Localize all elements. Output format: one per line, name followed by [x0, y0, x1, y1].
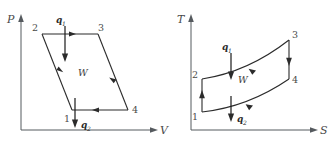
- pv-y-axis: [18, 14, 24, 130]
- ts-heat-out-subscript: 2: [242, 119, 247, 126]
- ts-heat-in-subscript: 1: [228, 47, 232, 54]
- pv-state-point-4: 4: [132, 104, 138, 115]
- ts-y-axis-label: T: [177, 13, 186, 26]
- pv-heat-in-arrow: [62, 26, 68, 62]
- ts-state-point-1: 1: [192, 111, 198, 122]
- pv-heat-in-subscript: 1: [62, 20, 66, 27]
- pv-work-label: W: [78, 67, 89, 78]
- pv-heat-out-arrow: [72, 98, 78, 128]
- pv-heat-in-label: q 1: [56, 15, 66, 27]
- ts-x-axis-label: S: [320, 124, 328, 137]
- ts-work-label: W: [238, 74, 249, 85]
- ts-heat-in-label: q 1: [222, 42, 232, 54]
- ts-x-axis: [191, 127, 318, 133]
- ts-state-point-4: 4: [292, 74, 298, 85]
- ts-heat-out-arrow: [228, 96, 234, 122]
- ts-heat-in-arrow: [228, 53, 234, 80]
- thermodynamic-cycle-figure: P V q 1: [0, 0, 334, 144]
- pv-state-point-2: 2: [32, 22, 38, 33]
- pv-state-point-3: 3: [98, 22, 104, 33]
- pv-y-axis-label: P: [6, 13, 15, 26]
- ts-diagram: T S q: [177, 13, 328, 137]
- ts-state-point-2: 2: [192, 69, 198, 80]
- pv-state-point-1: 1: [64, 113, 70, 124]
- pv-diagram: P V q 1: [6, 13, 169, 137]
- pv-heat-out-label: q 2: [81, 120, 91, 132]
- ts-heat-out-label: q 2: [237, 114, 247, 126]
- pv-x-axis-label: V: [160, 124, 169, 137]
- ts-state-point-3: 3: [292, 29, 298, 40]
- pv-heat-out-subscript: 2: [86, 125, 91, 132]
